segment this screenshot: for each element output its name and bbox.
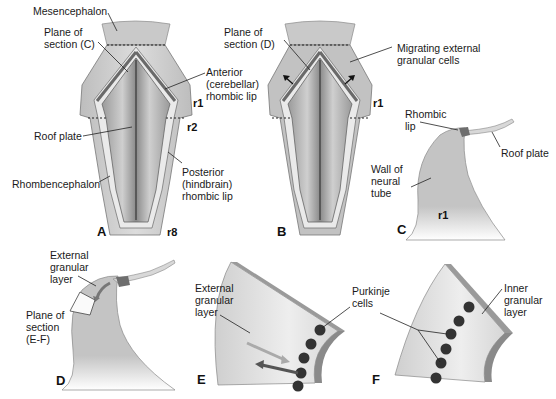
panel-letter-d: D bbox=[56, 373, 65, 388]
rhombomere-r2-a: r2 bbox=[187, 121, 197, 133]
label-inner-granular-layer: Inner granular layer bbox=[504, 282, 543, 318]
label-wall-of-neural-tube: Wall of neural tube bbox=[371, 163, 403, 199]
panel-e-drawing bbox=[215, 262, 350, 392]
panel-b-drawing bbox=[268, 21, 392, 235]
rhombomere-r8-a: r8 bbox=[167, 226, 177, 238]
label-plane-of-section-ef: Plane of section (E-F) bbox=[26, 309, 65, 345]
rhombomere-r1-c: r1 bbox=[438, 209, 448, 221]
rhombomere-r1-b: r1 bbox=[373, 97, 383, 109]
label-purkinje-cells: Purkinje cells bbox=[352, 285, 390, 309]
panel-c-drawing bbox=[406, 119, 514, 240]
label-external-granular-layer-d: External granular layer bbox=[50, 249, 89, 285]
cerebellum-development-figure: Mesencephalon Plane of section (C) Anter… bbox=[0, 0, 556, 399]
label-roof-plate-c: Roof plate bbox=[501, 147, 549, 159]
label-external-granular-layer-e: External granular layer bbox=[195, 282, 234, 318]
label-rhombic-lip: Rhombic lip bbox=[405, 108, 446, 132]
label-plane-of-section-c: Plane of section (C) bbox=[44, 26, 95, 50]
panel-f-drawing bbox=[380, 264, 513, 384]
label-mesencephalon: Mesencephalon bbox=[33, 5, 107, 17]
label-plane-of-section-d: Plane of section (D) bbox=[224, 26, 275, 50]
panel-letter-e: E bbox=[197, 372, 206, 387]
label-migrating-egl-cells: Migrating external granular cells bbox=[397, 42, 480, 66]
label-anterior-rhombic-lip: Anterior (cerebellar) rhombic lip bbox=[206, 66, 259, 102]
label-rhombencephalon: Rhombencephalon bbox=[12, 178, 100, 190]
panel-letter-a: A bbox=[97, 224, 106, 239]
panel-letter-b: B bbox=[277, 224, 286, 239]
label-roof-plate-a: Roof plate bbox=[34, 130, 82, 142]
label-posterior-rhombic-lip: Posterior (hindbrain) rhombic lip bbox=[182, 166, 233, 202]
panel-letter-c: C bbox=[397, 222, 406, 237]
panel-letter-f: F bbox=[372, 372, 380, 387]
rhombomere-r1-a: r1 bbox=[193, 97, 203, 109]
